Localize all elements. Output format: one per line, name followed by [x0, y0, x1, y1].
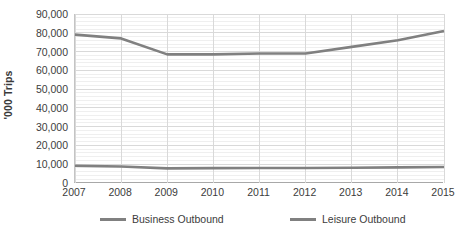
x-tick-label: 2007 — [62, 186, 85, 198]
y-tick-label: 40,000 — [36, 102, 68, 114]
x-axis-tick-labels: 200720082009201020112012201320142015 — [74, 186, 443, 204]
y-axis-tick-labels: 010,00020,00030,00040,00050,00060,00070,… — [16, 0, 72, 190]
y-tick-label: 20,000 — [36, 139, 68, 151]
x-tick-label: 2008 — [108, 186, 131, 198]
y-tick-label: 70,000 — [36, 46, 68, 58]
y-axis-title-label: '000 Trips — [2, 70, 14, 119]
x-tick-label: 2013 — [339, 186, 362, 198]
x-tick-label: 2010 — [201, 186, 224, 198]
legend-entry[interactable]: Leisure Outbound — [290, 211, 405, 227]
x-tick-label: 2014 — [385, 186, 408, 198]
plot-svg — [75, 14, 444, 183]
x-tick-label: 2015 — [431, 186, 454, 198]
y-axis-title: '000 Trips — [0, 0, 16, 190]
y-tick-label: 60,000 — [36, 64, 68, 76]
x-tick-label: 2009 — [155, 186, 178, 198]
legend-label: Leisure Outbound — [322, 213, 405, 225]
y-tick-label: 80,000 — [36, 27, 68, 39]
legend-label: Business Outbound — [132, 213, 224, 225]
legend-entry[interactable]: Business Outbound — [100, 211, 224, 227]
x-tick-label: 2011 — [247, 186, 270, 198]
x-tick-label: 2012 — [293, 186, 316, 198]
y-tick-label: 30,000 — [36, 121, 68, 133]
y-tick-label: 10,000 — [36, 158, 68, 170]
chart-legend: Business OutboundLeisure Outbound — [0, 211, 467, 229]
vertical-gridlines — [75, 14, 444, 183]
y-tick-label: 50,000 — [36, 83, 68, 95]
y-tick-label: 90,000 — [36, 8, 68, 20]
plot-area — [74, 14, 443, 183]
line-chart: '000 Trips 010,00020,00030,00040,00050,0… — [0, 0, 467, 232]
legend-swatch-icon — [290, 218, 316, 221]
legend-swatch-icon — [100, 218, 126, 221]
